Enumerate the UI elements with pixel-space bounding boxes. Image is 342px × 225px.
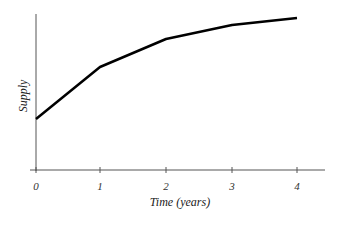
x-tick-3: 3 — [228, 180, 235, 192]
x-axis — [30, 167, 325, 173]
chart: 0 1 2 3 4 Time (years) Supply — [0, 0, 342, 225]
x-axis-title: Time (years) — [150, 195, 210, 209]
x-tick-2: 2 — [163, 180, 169, 192]
x-tick-4: 4 — [294, 180, 300, 192]
x-tick-1: 1 — [97, 180, 103, 192]
supply-line — [36, 18, 297, 119]
y-axis-title: Supply — [16, 79, 30, 112]
x-tick-0: 0 — [33, 180, 39, 192]
